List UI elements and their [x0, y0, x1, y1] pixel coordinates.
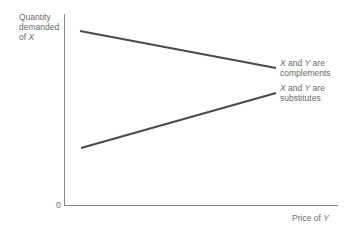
substitutes-label: X and Y are substitutes	[280, 83, 325, 103]
sub-and: and	[286, 83, 305, 93]
x-label-var: Y	[323, 213, 329, 223]
sub-are: are	[310, 83, 325, 93]
comp-and: and	[286, 58, 305, 68]
y-label-var: X	[28, 32, 34, 42]
x-label-text: Price of	[292, 213, 323, 223]
complements-label-line2: complements	[280, 68, 331, 78]
substitutes-label-line2: substitutes	[280, 93, 325, 103]
y-label-line2: demanded	[19, 22, 65, 32]
y-label-line3: of X	[19, 32, 65, 42]
complements-line	[80, 31, 276, 68]
x-axis-label: Price of Y	[292, 213, 329, 223]
origin-label: 0	[56, 200, 61, 210]
substitutes-line	[81, 93, 276, 148]
complements-label-line1: X and Y are	[280, 58, 331, 68]
complements-label: X and Y are complements	[280, 58, 331, 78]
comp-are: are	[310, 58, 325, 68]
substitutes-label-line1: X and Y are	[280, 83, 325, 93]
y-label-line1: Quantity	[19, 12, 65, 22]
y-axis-label: Quantity demanded of X	[19, 12, 65, 42]
